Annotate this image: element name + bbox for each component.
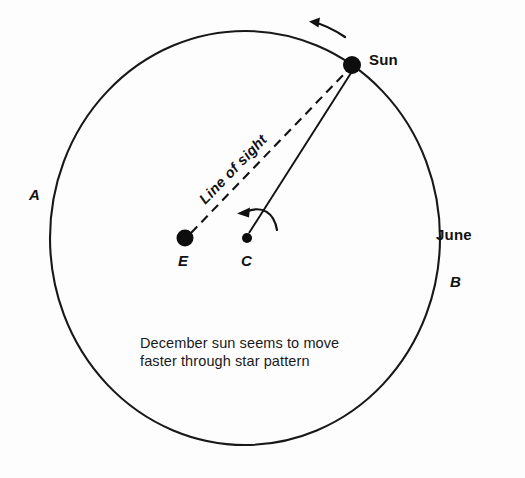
caption-line-2: faster through star pattern xyxy=(140,353,310,369)
earth-marker xyxy=(177,230,194,247)
june-label: June xyxy=(436,226,472,244)
center-label: C xyxy=(241,252,252,270)
orbit-diagram: Sun A June B E C Line of sight December … xyxy=(0,0,525,478)
point-b-label: B xyxy=(450,273,461,291)
sun-marker xyxy=(343,56,361,74)
orbit-direction-arrow-icon xyxy=(309,18,345,38)
center-marker xyxy=(242,233,252,243)
caption-line-1: December sun seems to move xyxy=(140,335,339,351)
earth-label: E xyxy=(178,252,188,270)
point-a-label: A xyxy=(29,186,40,204)
sun-label: Sun xyxy=(369,51,398,69)
line-of-sight-dashed xyxy=(191,71,347,233)
center-to-sun-line xyxy=(249,73,351,233)
caption-text: December sun seems to movefaster through… xyxy=(140,335,339,370)
